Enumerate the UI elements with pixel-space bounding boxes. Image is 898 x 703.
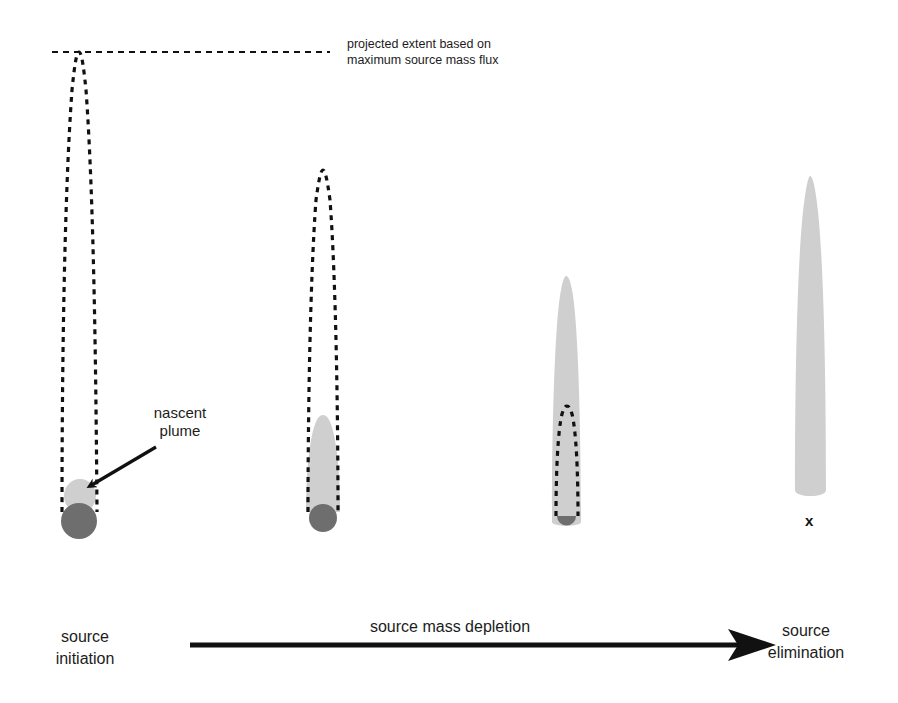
stage-4-source-elimination — [795, 176, 826, 496]
source-initiation-label: source initiation — [35, 626, 135, 670]
source-elimination-line2: elimination — [750, 642, 862, 664]
stage-3 — [552, 276, 581, 526]
eliminated-source-marker: x — [805, 512, 813, 529]
projected-extent-label-line2: maximum source mass flux — [347, 52, 498, 68]
stage-1-source-initiation — [61, 52, 97, 539]
plume-fill-4 — [795, 176, 826, 496]
nascent-plume-label-line2: plume — [150, 422, 210, 440]
projected-extent-label-line1: projected extent based on — [347, 36, 498, 52]
source-zone-1 — [61, 503, 97, 539]
plume-fill-2 — [306, 415, 340, 512]
source-elimination-line1: source — [750, 620, 862, 642]
projected-extent-label: projected extent based on maximum source… — [347, 36, 498, 68]
nascent-plume-label: nascent plume — [150, 404, 210, 440]
plume-evolution-diagram — [0, 0, 898, 703]
source-zone-2 — [309, 504, 337, 532]
nascent-plume-label-line1: nascent — [150, 404, 210, 422]
source-mass-depletion-label: source mass depletion — [330, 618, 570, 636]
source-elimination-label: source elimination — [750, 620, 862, 664]
projected-plume-outline-1 — [62, 52, 97, 512]
plume-fill-3 — [552, 276, 581, 526]
source-initiation-line2: initiation — [35, 648, 135, 670]
stage-2 — [306, 170, 340, 532]
nascent-plume-arrow — [90, 447, 156, 486]
source-initiation-line1: source — [35, 626, 135, 648]
